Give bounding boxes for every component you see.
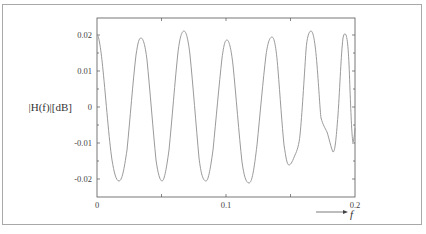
chart-svg: 0.02 0.01 0 -0.01 -0.02 0 0.1 0.2 |H(f)|… (0, 0, 426, 234)
plot-area (97, 18, 355, 197)
y-tick-label: -0.01 (74, 138, 92, 148)
x-tick-label: 0 (95, 200, 99, 210)
y-tick-label: 0 (88, 102, 92, 112)
x-ticks (162, 18, 291, 197)
y-tick-label: 0.02 (77, 30, 92, 40)
x-tick-label: 0.1 (221, 200, 232, 210)
y-axis-label: |H(f)|[dB] (28, 101, 72, 114)
frequency-response-curve (97, 31, 355, 183)
y-tick-label: -0.02 (74, 174, 92, 184)
y-tick-label: 0.01 (77, 66, 92, 76)
x-axis-arrow (316, 210, 348, 214)
